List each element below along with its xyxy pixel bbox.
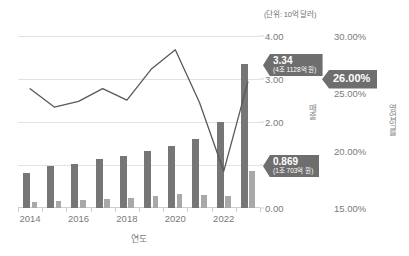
x-axis-label: 2016	[68, 213, 89, 224]
percent-axis-label: 30.00%	[334, 31, 366, 42]
callout-second-sub: (1조 703억 원)	[273, 168, 313, 175]
value-axis-tickmark	[260, 165, 264, 166]
callout-margin-peak: 26.00%	[322, 70, 377, 89]
line-series-layer	[18, 36, 260, 208]
x-axis-tick	[236, 208, 237, 212]
plot-area	[18, 36, 260, 208]
x-axis-tick	[212, 208, 213, 212]
x-axis: 20142016201820202022	[18, 208, 260, 230]
x-axis-tick	[139, 208, 140, 212]
percent-axis-label: 25.00%	[334, 88, 366, 99]
callout-margin-value: 26.00%	[333, 73, 370, 85]
x-axis-tick	[91, 208, 92, 212]
callout-second-peak: 0.869 (1조 703억 원)	[263, 155, 319, 177]
callout-revenue-value: 3.34	[273, 56, 317, 67]
x-axis-label: 2014	[20, 213, 41, 224]
percent-axis-label: 15.00%	[334, 203, 366, 214]
margin-axis-title: 영업익률	[386, 104, 398, 136]
value-axis-label: 2.00	[265, 117, 284, 128]
value-axis-tickmark	[260, 208, 264, 209]
x-axis-tick	[42, 208, 43, 212]
callout-second-value: 0.869	[273, 157, 313, 168]
x-axis-label: 2020	[165, 213, 186, 224]
value-axis-label: 4.00	[265, 31, 284, 42]
revenue-axis-title: 매출	[306, 104, 318, 120]
x-axis-label: 2018	[116, 213, 137, 224]
margin-line	[30, 50, 248, 172]
value-axis-tickmark	[260, 79, 264, 80]
x-axis-title: 연도	[18, 232, 260, 245]
unit-note: (단위: 10억 달러)	[264, 8, 316, 19]
x-axis-tick	[187, 208, 188, 212]
callout-revenue-sub: (4조 1128억 원)	[273, 67, 317, 74]
callout-revenue-peak: 3.34 (4조 1128억 원)	[263, 54, 323, 76]
x-axis-tick	[260, 208, 261, 212]
x-axis-tick	[115, 208, 116, 212]
x-axis-label: 2022	[213, 213, 234, 224]
x-axis-tick	[163, 208, 164, 212]
value-axis-tickmark	[260, 36, 264, 37]
value-axis-tickmark	[260, 122, 264, 123]
x-axis-tick	[18, 208, 19, 212]
x-axis-tick	[66, 208, 67, 212]
percent-axis-label: 20.00%	[334, 145, 366, 156]
chart-container: (단위: 10억 달러) 20142016201820202022 연도 0.0…	[0, 0, 409, 256]
value-axis-label: 0.00	[265, 203, 284, 214]
value-axis-right: 15.00%20.00%25.00%30.00%	[334, 36, 382, 208]
